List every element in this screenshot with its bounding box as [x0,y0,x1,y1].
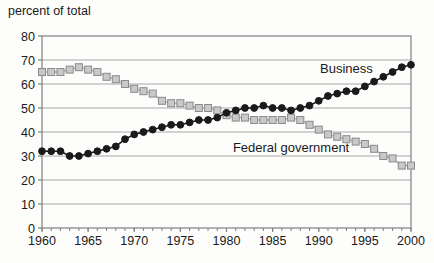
marker-circle [112,143,119,150]
marker-square [241,114,248,121]
marker-square [39,69,46,76]
marker-circle [242,105,249,112]
marker-circle [278,105,285,112]
x-tick-label: 1965 [74,234,102,248]
marker-circle [149,126,156,133]
series-label-business: Business [320,61,373,76]
x-tick-label: 1980 [213,234,241,248]
y-tick-label: 30 [21,150,35,164]
marker-square [352,138,359,145]
y-tick-label: 80 [21,30,35,44]
x-tick-label: 1995 [351,234,379,248]
marker-circle [380,73,387,80]
marker-square [214,107,221,114]
marker-circle [76,153,83,160]
marker-square [140,88,147,95]
marker-square [361,141,368,148]
marker-circle [168,121,175,128]
x-tick-label: 1960 [28,234,56,248]
x-tick-label: 1985 [259,234,287,248]
y-tick-label: 50 [21,102,35,116]
x-axis: 196019651970197519801985199019952000 [28,228,425,248]
marker-square [324,131,331,138]
marker-square [94,69,101,76]
marker-square [149,90,156,97]
marker-circle [223,109,230,116]
marker-square [75,64,82,71]
marker-circle [195,117,202,124]
marker-circle [297,105,304,112]
marker-square [297,117,304,124]
marker-circle [39,148,46,155]
marker-circle [122,136,129,143]
marker-circle [159,124,166,131]
marker-square [408,162,415,169]
marker-circle [94,148,101,155]
series-label-federal-government: Federal government [233,140,350,155]
marker-square [269,117,276,124]
marker-circle [140,129,147,136]
marker-square [306,121,313,128]
marker-square [195,105,202,112]
y-tick-label: 40 [21,126,35,140]
x-tick-label: 2000 [397,234,425,248]
marker-square [48,69,55,76]
marker-circle [251,105,258,112]
y-axis: 01020304050607080 [21,30,42,236]
x-tick-label: 1970 [120,234,148,248]
marker-square [380,153,387,160]
marker-square [260,117,267,124]
marker-square [288,114,295,121]
marker-circle [177,121,184,128]
marker-circle [352,88,359,95]
marker-circle [57,148,64,155]
marker-circle [343,88,350,95]
marker-square [112,76,119,83]
y-tick-label: 70 [21,54,35,68]
y-tick-label: 60 [21,78,35,92]
marker-square [278,117,285,124]
marker-circle [131,131,138,138]
marker-circle [103,145,110,152]
marker-circle [408,61,415,68]
marker-square [168,100,175,107]
marker-square [57,69,64,76]
marker-square [177,100,184,107]
marker-circle [260,102,267,109]
marker-square [371,145,378,152]
marker-circle [371,78,378,85]
marker-circle [232,107,239,114]
marker-square [398,162,405,169]
marker-circle [85,150,92,157]
marker-circle [389,69,396,76]
line-chart-canvas: 0102030405060708019601965197019751980198… [0,0,434,263]
marker-circle [361,83,368,90]
marker-square [85,66,92,73]
marker-square [334,133,341,140]
x-tick-label: 1975 [166,234,194,248]
gridlines [42,60,411,204]
marker-circle [315,97,322,104]
marker-square [158,97,165,104]
marker-circle [306,102,313,109]
marker-square [389,155,396,162]
marker-circle [186,119,193,126]
marker-square [251,117,258,124]
marker-circle [398,64,405,71]
y-tick-label: 10 [21,198,35,212]
x-tick-label: 1990 [305,234,333,248]
marker-square [315,126,322,133]
marker-square [66,66,73,73]
marker-square [186,102,193,109]
marker-circle [325,93,332,100]
marker-square [122,81,129,88]
marker-circle [205,117,212,124]
marker-circle [288,107,295,114]
y-tick-label: 20 [21,174,35,188]
marker-square [205,105,212,112]
marker-square [103,73,110,80]
marker-circle [66,153,73,160]
marker-circle [48,148,55,155]
marker-circle [269,105,276,112]
marker-square [232,114,239,121]
